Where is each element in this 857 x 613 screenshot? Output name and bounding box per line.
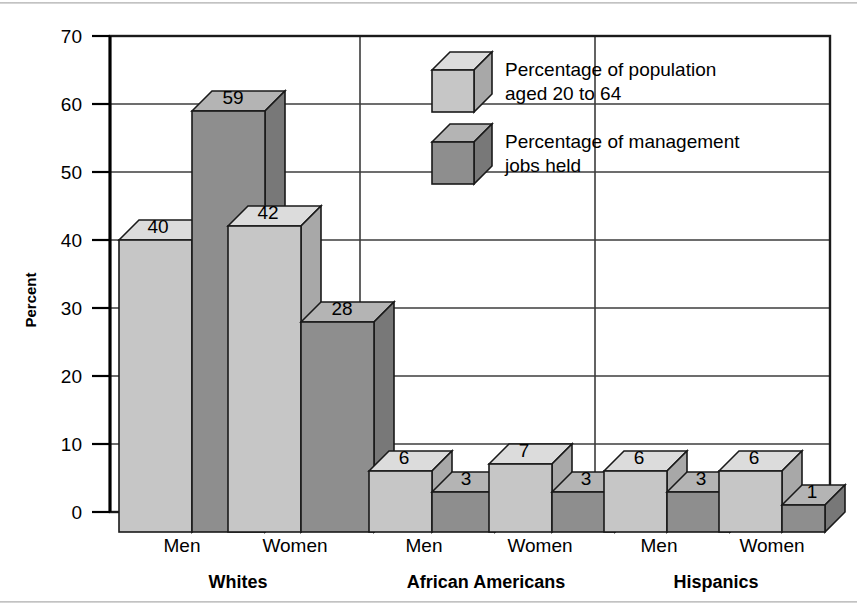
top-divider-rule	[0, 2, 857, 4]
legend-label-management-line2: jobs held	[504, 155, 581, 176]
bar-front-face	[119, 240, 192, 532]
legend-swatch-population-cube	[432, 52, 492, 112]
legend-label-management-line1: Percentage of management	[505, 131, 740, 152]
group-label-african-americans: African Americans	[407, 572, 565, 592]
y-tick-label-50: 50	[61, 162, 82, 183]
category-label-hisp-women: Women	[739, 535, 804, 556]
value-label-aa-men-population: 6	[399, 447, 410, 468]
chart-figure: 70 60 50 40 30 20 10 0 Percent	[0, 0, 857, 613]
value-label-aa-women-population: 7	[519, 440, 530, 461]
bar-front-face	[782, 505, 825, 532]
bar-front-face	[301, 322, 374, 532]
value-label-whites-women-management: 28	[331, 298, 352, 319]
y-tick-label-10: 10	[61, 434, 82, 455]
bar-chart-svg: 70 60 50 40 30 20 10 0 Percent	[0, 0, 857, 613]
value-label-whites-women-population: 42	[257, 202, 278, 223]
bar-front-face	[228, 226, 301, 532]
group-label-whites: Whites	[208, 572, 267, 592]
bottom-divider-rule	[0, 601, 857, 603]
bar-front-face	[432, 492, 495, 532]
value-label-whites-men-population: 40	[147, 216, 168, 237]
y-tick-label-60: 60	[61, 94, 82, 115]
legend-label-population-line1: Percentage of population	[505, 59, 716, 80]
category-label-aa-women: Women	[507, 535, 572, 556]
group-labels: Whites African Americans Hispanics	[208, 572, 758, 592]
category-label-aa-men: Men	[406, 535, 443, 556]
category-label-whites-men: Men	[164, 535, 201, 556]
bar-front-face	[604, 471, 667, 532]
bar-front-face	[369, 471, 432, 532]
y-tick-label-20: 20	[61, 366, 82, 387]
value-label-whites-men-management: 59	[222, 87, 243, 108]
legend-swatch-management-cube	[432, 124, 492, 184]
y-axis: 70 60 50 40 30 20 10 0 Percent	[22, 26, 110, 523]
value-label-hisp-men-management: 3	[696, 468, 707, 489]
y-tick-label-0: 0	[71, 502, 82, 523]
bar-front-face	[489, 464, 552, 532]
value-label-hisp-women-management: 1	[807, 481, 818, 502]
group-label-hispanics: Hispanics	[673, 572, 758, 592]
bar-front-face	[719, 471, 782, 532]
category-label-hisp-men: Men	[641, 535, 678, 556]
value-label-hisp-women-population: 6	[749, 447, 760, 468]
y-tick-label-70: 70	[61, 26, 82, 47]
y-tick-label-40: 40	[61, 230, 82, 251]
cube-front-face	[432, 70, 474, 112]
value-label-aa-men-management: 3	[461, 468, 472, 489]
value-label-hisp-men-population: 6	[634, 447, 645, 468]
category-labels: Men Women Men Women Men Women	[164, 535, 805, 556]
value-label-aa-women-management: 3	[581, 468, 592, 489]
legend-label-population-line2: aged 20 to 64	[505, 83, 622, 104]
y-axis-title: Percent	[22, 272, 39, 327]
y-axis-ticks	[92, 36, 110, 512]
cube-front-face	[432, 142, 474, 184]
y-tick-label-30: 30	[61, 298, 82, 319]
category-label-whites-women: Women	[262, 535, 327, 556]
